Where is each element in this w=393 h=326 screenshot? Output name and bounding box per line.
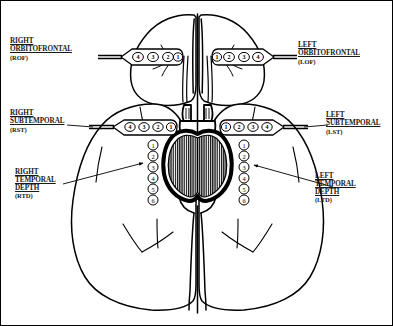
ltd-contact-5: 5 [240, 185, 249, 194]
label-rtd-abbr: (RTD) [15, 192, 56, 199]
lof-contact-2: 2 [225, 53, 233, 61]
rst-contact-3: 2 [154, 123, 162, 131]
ltd-contact-3: 3 [240, 163, 249, 172]
label-ltd-line3: DEPTH [315, 189, 356, 197]
label-right-subtemporal: RIGHT SUBTEMPORAL (RST) [10, 110, 64, 133]
ltd-contact-1: 1 [240, 141, 249, 150]
rst-contact-2: 3 [140, 123, 148, 131]
label-lst-abbr: (LST) [326, 128, 380, 135]
rof-contact-1: 4 [134, 53, 142, 61]
label-left-orbitofrontal: LEFT ORBITOFRONTAL (LOF) [298, 42, 360, 65]
label-lof-line2: ORBITOFRONTAL [298, 50, 360, 58]
rof-contact-3: 2 [164, 53, 172, 61]
rtd-contact-5: 5 [149, 185, 158, 194]
lst-contact-3: 3 [249, 123, 257, 131]
ltd-contact-4: 4 [240, 174, 249, 183]
rst-contact-1: 4 [126, 123, 134, 131]
label-rof-line2: ORBITOFRONTAL [10, 46, 72, 54]
label-rof-abbr: (ROF) [10, 54, 72, 61]
rtd-contact-6: 6 [149, 196, 158, 205]
rtd-contact-4: 4 [149, 174, 158, 183]
label-left-subtemporal: LEFT SUBTEMPORAL (LST) [326, 112, 380, 135]
ltd-contact-6: 6 [240, 196, 249, 205]
label-ltd-abbr: (LTD) [315, 196, 356, 203]
rtd-contact-3: 3 [149, 163, 158, 172]
lst-contact-2: 2 [235, 123, 243, 131]
figure-frame: RIGHT ORBITOFRONTAL (ROF) LEFT ORBITOFRO… [0, 0, 393, 326]
rof-contact-4: 1 [174, 53, 182, 61]
label-right-orbitofrontal: RIGHT ORBITOFRONTAL (ROF) [10, 38, 72, 61]
rtd-contact-1: 1 [149, 141, 158, 150]
lst-contact-1: 1 [222, 123, 230, 131]
rtd-contact-2: 2 [149, 152, 158, 161]
label-rtd-line3: DEPTH [15, 185, 56, 193]
label-left-temporal-depth: LEFT TEMPORAL DEPTH (LTD) [315, 173, 356, 203]
lof-contact-1: 1 [213, 53, 221, 61]
lof-contact-3: 3 [240, 53, 248, 61]
label-lof-abbr: (LOF) [298, 58, 360, 65]
label-lst-line2: SUBTEMPORAL [326, 120, 380, 128]
rst-contact-4: 1 [167, 123, 175, 131]
cerebellum [163, 131, 231, 201]
rof-contact-2: 3 [149, 53, 157, 61]
lof-contact-4: 4 [254, 53, 262, 61]
label-right-temporal-depth: RIGHT TEMPORAL DEPTH (RTD) [15, 169, 56, 199]
label-rst-abbr: (RST) [10, 126, 64, 133]
label-rst-line2: SUBTEMPORAL [10, 118, 64, 126]
lst-contact-4: 4 [263, 123, 271, 131]
ltd-contact-2: 2 [240, 152, 249, 161]
